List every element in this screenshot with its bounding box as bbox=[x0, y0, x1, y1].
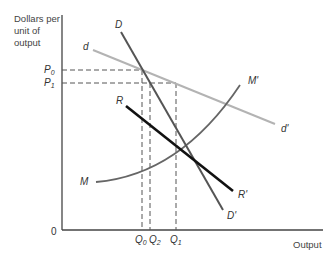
q1-label: Q1 bbox=[170, 234, 182, 246]
q2-label: Q2 bbox=[149, 234, 161, 246]
curve-R-end-label: R' bbox=[238, 189, 248, 200]
curve-d-end-label: d' bbox=[281, 123, 290, 134]
curve-d bbox=[93, 50, 275, 124]
p1-label: P1 bbox=[44, 77, 55, 89]
curve-R-start-label: R bbox=[116, 95, 123, 106]
curve-M-start-label: M bbox=[80, 176, 89, 187]
curve-M-end-label: M' bbox=[248, 75, 259, 86]
curve-d-start-label: d bbox=[83, 41, 89, 52]
dashed-guides bbox=[62, 70, 176, 230]
x-axis-label: Output bbox=[293, 239, 322, 250]
curve-D-start-label: D bbox=[115, 19, 122, 30]
economics-diagram: Dollars per unit of output 0 Output P0 P… bbox=[0, 0, 336, 262]
curve-D-end-label: D' bbox=[227, 210, 237, 221]
q0-label: Q0 bbox=[135, 234, 147, 246]
curve-D bbox=[121, 32, 223, 210]
p0-label: P0 bbox=[44, 64, 55, 76]
y-axis-label: Dollars per unit of output bbox=[14, 13, 63, 48]
origin-label: 0 bbox=[51, 226, 57, 237]
